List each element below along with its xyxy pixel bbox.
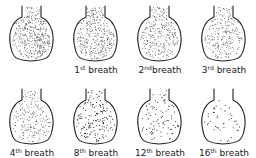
flask-cell: 8th breath xyxy=(64,83,128,158)
flask-icon xyxy=(0,0,64,66)
breath-word: breath xyxy=(22,148,54,158)
flask-cell: 2ndbreath xyxy=(128,0,192,79)
flask-icon xyxy=(192,0,256,66)
breath-word: breath xyxy=(153,148,185,158)
breath-word: breath xyxy=(152,65,182,75)
breath-number: 12 xyxy=(135,148,146,158)
flask-icon xyxy=(0,83,64,149)
flask-cell: 4th breath xyxy=(0,83,64,158)
ordinal-suffix: nd xyxy=(144,64,152,71)
flask-icon xyxy=(128,83,192,149)
breath-word: breath xyxy=(217,148,249,158)
flask-icon xyxy=(128,0,192,66)
flask-icon xyxy=(64,83,128,149)
breath-label: 8th breath xyxy=(64,148,128,158)
breath-word: breath xyxy=(214,65,246,75)
breath-label: 2ndbreath xyxy=(128,65,192,75)
flask-icon xyxy=(192,83,256,149)
flask-outline xyxy=(74,89,117,144)
breath-label: 3rd breath xyxy=(192,65,256,75)
flask-cell: 12th breath xyxy=(128,83,192,158)
flask-cell: 16th breath xyxy=(192,83,256,158)
flask-outline xyxy=(10,6,53,61)
flask-outline xyxy=(202,6,245,61)
breath-label: 4th breath xyxy=(0,148,64,158)
flask-cell xyxy=(0,0,64,79)
breath-label: 16th breath xyxy=(192,148,256,158)
flask-outline xyxy=(138,89,181,144)
breath-word: breath xyxy=(86,148,118,158)
breath-label: 1st breath xyxy=(64,65,128,75)
breath-word: breath xyxy=(85,65,117,75)
flask-cell: 3rd breath xyxy=(192,0,256,79)
flask-cell: 1st breath xyxy=(64,0,128,79)
flask-icon xyxy=(64,0,128,66)
breath-number: 16 xyxy=(199,148,210,158)
breath-label: 12th breath xyxy=(128,148,192,158)
